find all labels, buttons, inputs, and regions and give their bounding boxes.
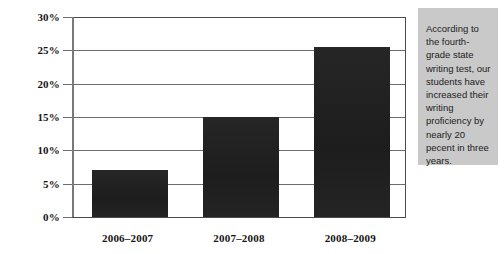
bar [92,170,168,217]
y-axis-tick-mark [63,84,72,85]
y-axis-tick-mark [63,217,72,218]
y-axis-tick-mark [63,17,72,18]
x-axis-baseline [72,217,406,218]
callout-box: According to the fourth-grade state writ… [418,8,498,165]
bar [314,47,390,217]
y-axis-tick-label: 5% [12,178,60,190]
x-axis-category-label: 2007–2008 [179,232,299,244]
y-axis-tick-label: 25% [12,44,60,56]
y-axis-tick-label: 30% [12,11,60,23]
y-axis-tick-mark [63,50,72,51]
bar [203,117,279,217]
y-axis-tick-mark [63,184,72,185]
y-axis-tick-label: 0% [12,211,60,223]
x-axis-category-label: 2006–2007 [68,232,188,244]
y-axis-tick-label: 10% [12,144,60,156]
y-axis-tick-mark [63,150,72,151]
y-axis-tick-label: 15% [12,111,60,123]
bar-chart: 0%5%10%15%20%25%30% 2006–20072007–200820… [0,0,412,254]
y-axis-tick-label: 20% [12,78,60,90]
x-axis-category-label: 2008–2009 [290,232,410,244]
callout-text: According to the fourth-grade state writ… [426,22,491,167]
plot-frame [72,17,406,217]
y-axis-tick-mark [63,117,72,118]
chart-screenshot: 0%5%10%15%20%25%30% 2006–20072007–200820… [0,0,504,254]
y-axis-labels: 0%5%10%15%20%25%30% [12,0,60,254]
